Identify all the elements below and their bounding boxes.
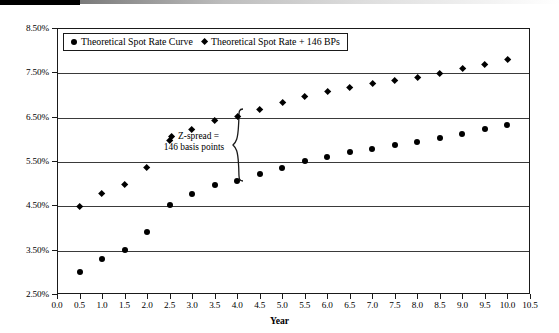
x-axis-tick	[440, 294, 441, 299]
y-axis-tick	[52, 250, 57, 251]
data-point-circle	[99, 256, 105, 262]
x-axis-tick	[282, 294, 283, 299]
x-axis-tick	[305, 294, 306, 299]
data-point-circle	[279, 165, 285, 171]
data-point-circle	[347, 149, 353, 155]
gridline	[58, 162, 529, 163]
x-axis-tick	[57, 294, 58, 299]
data-point-circle	[302, 158, 308, 164]
y-axis-tick	[52, 72, 57, 73]
data-point-circle	[144, 229, 150, 235]
data-point-circle	[459, 131, 465, 137]
x-axis-tick	[485, 294, 486, 299]
x-axis-tick	[372, 294, 373, 299]
data-point-circle	[122, 247, 128, 253]
x-axis-tick	[530, 294, 531, 299]
x-axis-tick	[260, 294, 261, 299]
x-axis-tick	[125, 294, 126, 299]
diamond-marker-icon	[201, 38, 208, 45]
x-axis-tick	[170, 294, 171, 299]
data-point-circle	[369, 146, 375, 152]
scan-artifact-bar	[0, 0, 80, 5]
y-axis-tick	[52, 117, 57, 118]
x-axis-tick	[147, 294, 148, 299]
y-axis-tick-label: 4.50%	[3, 200, 49, 210]
scan-artifact-gradient	[80, 0, 559, 4]
z-spread-annotation: Z-spread = 146 basis points	[150, 131, 238, 152]
y-axis-tick-label: 5.50%	[3, 156, 49, 166]
x-axis-tick	[350, 294, 351, 299]
data-point-circle	[167, 202, 173, 208]
x-axis-tick	[327, 294, 328, 299]
legend-label-2: Theoretical Spot Rate + 146 BPs	[211, 36, 340, 47]
y-axis-tick-label: 2.50%	[3, 289, 49, 299]
gridline	[58, 118, 529, 119]
x-axis-tick	[395, 294, 396, 299]
y-axis-tick-label: 7.50%	[3, 67, 49, 77]
data-point-circle	[257, 171, 263, 177]
gridline	[58, 206, 529, 207]
data-point-circle	[324, 154, 330, 160]
x-axis-tick	[80, 294, 81, 299]
data-point-circle	[437, 135, 443, 141]
data-point-circle	[392, 142, 398, 148]
y-axis-tick	[52, 161, 57, 162]
gridline	[58, 73, 529, 74]
data-point-circle	[77, 269, 83, 275]
spot-rate-chart: 2.50%3.50%4.50%5.50%6.50%7.50%8.50% 0.00…	[0, 0, 559, 333]
x-axis-title: Year	[0, 315, 559, 326]
circle-marker-icon	[71, 39, 77, 45]
x-axis-tick	[215, 294, 216, 299]
gridline	[58, 251, 529, 252]
x-axis-tick	[462, 294, 463, 299]
z-spread-line2: 146 basis points	[150, 142, 238, 153]
y-axis-tick	[52, 205, 57, 206]
y-axis-tick	[52, 28, 57, 29]
chart-legend: Theoretical Spot Rate Curve Theoretical …	[63, 33, 348, 51]
z-spread-line1: Z-spread =	[178, 131, 219, 142]
x-axis-tick	[417, 294, 418, 299]
y-axis-tick-label: 8.50%	[3, 23, 49, 33]
x-axis-tick	[192, 294, 193, 299]
legend-label-1: Theoretical Spot Rate Curve	[81, 36, 193, 47]
data-point-circle	[482, 126, 488, 132]
y-axis-tick-label: 3.50%	[3, 245, 49, 255]
legend-entry-spot-rate-plus-146: Theoretical Spot Rate + 146 BPs	[202, 36, 340, 47]
legend-entry-spot-rate-curve: Theoretical Spot Rate Curve	[71, 36, 193, 47]
x-axis-tick	[102, 294, 103, 299]
x-axis-tick	[237, 294, 238, 299]
x-axis-tick-label: 10.5	[513, 300, 547, 310]
y-axis-tick-label: 6.50%	[3, 112, 49, 122]
x-axis-tick	[507, 294, 508, 299]
